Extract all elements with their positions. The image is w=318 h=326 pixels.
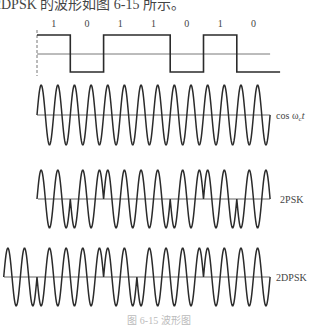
bit-label: 1 <box>51 18 56 29</box>
bit-label: 0 <box>84 18 89 29</box>
dpsk-waveform-diagram: 1011010 cos ωct 2PSK 2DPSK <box>0 0 318 326</box>
2dpsk-label: 2DPSK <box>276 272 307 283</box>
carrier-waveform <box>37 85 270 145</box>
bit-label: 1 <box>151 18 156 29</box>
figure-caption: 图 6-15 波形图 <box>0 312 318 326</box>
bit-label: 0 <box>184 18 189 29</box>
bit-label: 1 <box>218 18 223 29</box>
2dpsk-waveform <box>4 248 270 306</box>
bit-label: 0 <box>251 18 256 29</box>
digital-signal <box>37 30 280 76</box>
carrier-label: cos ωct <box>276 110 305 123</box>
digital-waveform <box>37 35 280 72</box>
2psk-waveform <box>37 170 270 228</box>
bit-label: 1 <box>118 18 123 29</box>
2psk-label: 2PSK <box>280 194 304 205</box>
bit-labels: 1011010 <box>51 18 256 29</box>
